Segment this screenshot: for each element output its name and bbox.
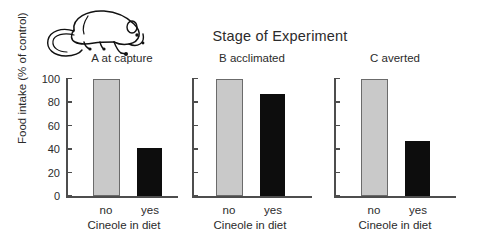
panel-c-cat-no: no [368, 204, 381, 216]
panel-a-tick-80 [67, 101, 72, 102]
panel-c: C averted no yes Cineole in diet [334, 52, 456, 241]
panel-a-y-axis [66, 78, 68, 197]
panel-a-title: A at capture [66, 52, 178, 64]
panel-a-plot-area: 0 20 40 60 80 100 [66, 79, 178, 196]
panel-c-x-axis [334, 196, 456, 198]
panel-b-y-axis [192, 78, 194, 197]
panel-b-cat-yes: yes [264, 204, 282, 216]
panel-b-tick-60 [193, 125, 198, 126]
panel-a-tick-0 [67, 195, 72, 196]
panel-a-tick-100 [67, 78, 72, 79]
panel-a: A at capture 0 20 40 60 80 100 no yes Ci… [66, 52, 178, 241]
panel-c-tick-80 [335, 101, 340, 102]
panel-c-plot-area [334, 79, 456, 196]
panel-c-bar-yes [405, 141, 430, 196]
y-tick-label-20: 20 [30, 167, 60, 179]
panel-a-cat-yes: yes [141, 204, 159, 216]
panel-c-x-axis-caption: Cineole in diet [334, 219, 456, 231]
panel-b-tick-100 [193, 78, 198, 79]
panel-b-x-axis-caption: Cineole in diet [190, 219, 310, 231]
panel-b-x-axis [192, 196, 312, 198]
panel-c-tick-100 [335, 78, 340, 79]
y-tick-label-100: 100 [30, 73, 60, 85]
panel-c-title: C averted [334, 52, 456, 64]
panel-c-tick-20 [335, 172, 340, 173]
panel-b-tick-20 [193, 172, 198, 173]
panel-b-bar-yes [260, 94, 285, 196]
panel-c-y-axis [334, 78, 336, 197]
panel-b-plot-area [192, 79, 312, 196]
panel-c-cat-yes: yes [409, 204, 427, 216]
panel-b-tick-0 [193, 195, 198, 196]
panel-a-tick-20 [67, 172, 72, 173]
y-tick-label-0: 0 [30, 190, 60, 202]
panel-a-cat-no: no [100, 204, 113, 216]
y-tick-label-40: 40 [30, 143, 60, 155]
panel-a-x-axis [66, 196, 178, 198]
panel-b-bar-no [216, 79, 243, 196]
panel-b: B acclimated no yes Cineole in diet [192, 52, 312, 241]
panel-b-cat-no: no [223, 204, 236, 216]
bar-chart-figure: Stage of Experiment Food intake (% of co… [0, 0, 478, 241]
panel-b-tick-40 [193, 148, 198, 149]
y-axis-label: Food intake (% of control) [16, 24, 28, 144]
panel-a-bar-no [93, 79, 120, 196]
panel-b-title: B acclimated [192, 52, 312, 64]
panel-a-tick-60 [67, 125, 72, 126]
panel-a-tick-40 [67, 148, 72, 149]
panel-a-x-axis-caption: Cineole in diet [68, 219, 180, 231]
panel-c-tick-40 [335, 148, 340, 149]
panel-c-tick-0 [335, 195, 340, 196]
panel-c-bar-no [361, 79, 388, 196]
panel-c-tick-60 [335, 125, 340, 126]
panel-a-bar-yes [137, 148, 162, 196]
chart-title: Stage of Experiment [175, 28, 385, 44]
panel-b-tick-80 [193, 101, 198, 102]
y-tick-label-80: 80 [30, 96, 60, 108]
y-tick-label-60: 60 [30, 120, 60, 132]
